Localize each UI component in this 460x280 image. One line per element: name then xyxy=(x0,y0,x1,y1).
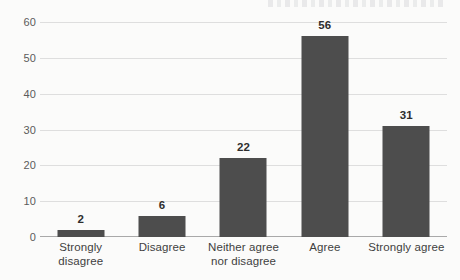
plot-area: 2 6 22 56 31 xyxy=(40,22,447,237)
bar-value-label: 56 xyxy=(318,19,331,31)
x-axis-category: Disagree xyxy=(121,240,202,254)
bar-chart-figure: 60 50 40 30 20 10 0 2 6 22 xyxy=(0,0,460,280)
y-axis-tick-label: 30 xyxy=(2,125,36,135)
x-axis-category-line: Agree xyxy=(284,240,365,254)
page-bleed-through-artifact xyxy=(268,0,446,7)
bar[interactable] xyxy=(139,216,186,238)
x-axis-category: Agree xyxy=(284,240,365,254)
y-axis-tick-label: 10 xyxy=(2,196,36,206)
y-axis-tick-label: 50 xyxy=(2,53,36,63)
bar-value-label: 2 xyxy=(77,213,84,225)
y-axis-tick-label: 40 xyxy=(2,89,36,99)
x-axis-category-line: nor disagree xyxy=(199,254,288,268)
bar-slot: 6 xyxy=(121,22,202,237)
bar-slot: 31 xyxy=(366,22,447,237)
bar[interactable] xyxy=(220,158,267,237)
x-axis-category-line: Strongly xyxy=(40,240,121,254)
bar-slot: 56 xyxy=(284,22,365,237)
x-axis-category: Neither agree nor disagree xyxy=(199,240,288,268)
y-axis-tick-label: 60 xyxy=(2,17,36,27)
bar[interactable] xyxy=(57,230,104,237)
bar[interactable] xyxy=(383,126,430,237)
y-axis-tick-label: 20 xyxy=(2,160,36,170)
bar-slot: 2 xyxy=(40,22,121,237)
y-axis-tick-label: 0 xyxy=(2,232,36,242)
bar-value-label: 22 xyxy=(237,141,250,153)
y-axis-tick-labels: 60 50 40 30 20 10 0 xyxy=(0,22,36,237)
x-axis-category-line: disagree xyxy=(40,254,121,268)
bar-value-label: 6 xyxy=(159,199,166,211)
bar-slot: 22 xyxy=(203,22,284,237)
x-axis-category-labels: Strongly disagree Disagree Neither agree… xyxy=(40,240,447,278)
x-axis-category: Strongly agree xyxy=(362,240,451,254)
bar-value-label: 31 xyxy=(400,109,413,121)
x-axis-category-line: Disagree xyxy=(121,240,202,254)
x-axis-category-line: Strongly agree xyxy=(362,240,451,254)
x-axis-category: Strongly disagree xyxy=(40,240,121,268)
bar[interactable] xyxy=(301,36,348,237)
x-axis-category-line: Neither agree xyxy=(199,240,288,254)
